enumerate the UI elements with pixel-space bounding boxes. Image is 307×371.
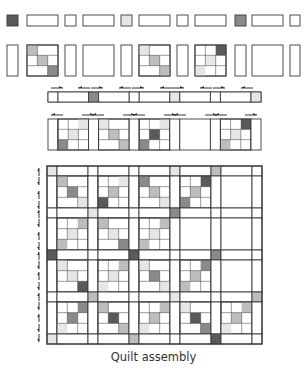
block-square bbox=[190, 187, 200, 198]
block-square bbox=[139, 260, 149, 271]
nine-patch-block bbox=[139, 176, 170, 208]
sashing-strip bbox=[139, 166, 170, 176]
sashing-strip bbox=[139, 250, 170, 260]
arrow-up-icon bbox=[37, 293, 39, 301]
block-square bbox=[180, 302, 190, 313]
sashing-strip bbox=[139, 92, 170, 102]
sewn-block-row bbox=[48, 119, 261, 150]
sewn-sashing-row bbox=[48, 92, 261, 102]
block-square bbox=[139, 140, 149, 150]
cornerstone bbox=[252, 250, 262, 260]
block-square bbox=[190, 271, 200, 282]
sashing-strip bbox=[139, 292, 170, 302]
arrow-up-icon bbox=[37, 314, 39, 322]
arrow-right-icon bbox=[213, 86, 225, 88]
block-square bbox=[160, 197, 170, 208]
block-square bbox=[67, 187, 77, 198]
sashing-strip bbox=[47, 218, 57, 250]
block-square bbox=[149, 229, 159, 240]
cornerstone bbox=[7, 15, 18, 26]
nine-patch-block bbox=[180, 302, 211, 334]
sashing-strip bbox=[180, 250, 211, 260]
exploded-sashing-row bbox=[7, 15, 300, 26]
cornerstone bbox=[88, 334, 98, 344]
block-background bbox=[221, 260, 252, 292]
cornerstone bbox=[251, 92, 261, 102]
block-square bbox=[160, 66, 170, 76]
sashing-strip bbox=[129, 218, 139, 250]
cornerstone bbox=[170, 250, 180, 260]
sashing-strip bbox=[170, 218, 180, 250]
arrow-down-icon bbox=[37, 177, 39, 185]
arrow-left-icon bbox=[133, 113, 145, 115]
block-background bbox=[180, 218, 211, 250]
sashing-strip bbox=[65, 45, 76, 76]
block-square bbox=[160, 281, 170, 292]
sashing-strip bbox=[211, 176, 221, 208]
block-square bbox=[98, 281, 108, 292]
block-square bbox=[221, 323, 231, 334]
sashing-strip bbox=[57, 292, 88, 302]
sashing-strip bbox=[88, 218, 98, 250]
arrow-up-icon bbox=[37, 210, 39, 218]
sashing-strip bbox=[47, 302, 57, 334]
nine-patch-block bbox=[57, 302, 88, 334]
nine-patch-block bbox=[180, 260, 211, 292]
cornerstone bbox=[121, 15, 132, 26]
block-square bbox=[78, 218, 88, 229]
block-square bbox=[98, 302, 108, 313]
sashing-strip bbox=[221, 250, 252, 260]
block-square bbox=[57, 323, 67, 334]
cornerstone bbox=[170, 166, 180, 176]
block-square bbox=[180, 281, 190, 292]
block-square bbox=[67, 229, 77, 240]
arrow-left-icon bbox=[119, 86, 131, 88]
arrow-left-icon bbox=[174, 113, 186, 115]
arrow-left-icon bbox=[51, 113, 63, 115]
block-square bbox=[78, 119, 88, 129]
nine-patch-block bbox=[98, 176, 129, 208]
quilt-assembly-diagram bbox=[0, 0, 307, 371]
block-square bbox=[139, 239, 149, 250]
block-square bbox=[216, 45, 226, 55]
block-square bbox=[57, 260, 67, 271]
block-square bbox=[119, 260, 129, 271]
sashing-strip bbox=[98, 166, 129, 176]
sashing-strip bbox=[195, 15, 226, 26]
block-square bbox=[78, 197, 88, 208]
arrow-right-icon bbox=[91, 86, 103, 88]
block-square bbox=[108, 313, 118, 324]
cornerstone bbox=[88, 292, 98, 302]
block-square bbox=[119, 239, 129, 250]
block-square bbox=[190, 313, 200, 324]
cornerstone bbox=[211, 334, 221, 344]
plain-block bbox=[180, 218, 211, 250]
nine-patch-block bbox=[99, 119, 130, 150]
block-background bbox=[180, 119, 211, 150]
arrow-up-icon bbox=[37, 232, 39, 240]
cornerstone bbox=[88, 166, 98, 176]
sashing-strip bbox=[170, 260, 180, 292]
cornerstone bbox=[129, 166, 139, 176]
cornerstone bbox=[290, 15, 300, 26]
arrow-left-icon bbox=[92, 113, 104, 115]
nine-patch-block bbox=[139, 218, 170, 250]
arrow-down-icon bbox=[37, 261, 39, 269]
sashing-strip bbox=[211, 218, 221, 250]
sashing-strip bbox=[251, 119, 261, 150]
block-square bbox=[57, 176, 67, 187]
cornerstone bbox=[252, 166, 262, 176]
sashing-strip bbox=[235, 45, 246, 76]
cornerstone bbox=[210, 92, 220, 102]
block-square bbox=[205, 55, 215, 65]
cornerstone bbox=[47, 166, 57, 176]
arrow-left-icon bbox=[215, 113, 227, 115]
arrow-right-icon bbox=[245, 113, 257, 115]
arrow-up-icon bbox=[37, 168, 39, 176]
arrow-left-icon bbox=[78, 86, 90, 88]
nine-patch-block bbox=[57, 176, 88, 208]
arrow-up-icon bbox=[37, 272, 39, 280]
plain-block bbox=[221, 218, 252, 250]
arrow-left-icon bbox=[241, 86, 253, 88]
sashing-strip bbox=[180, 166, 211, 176]
